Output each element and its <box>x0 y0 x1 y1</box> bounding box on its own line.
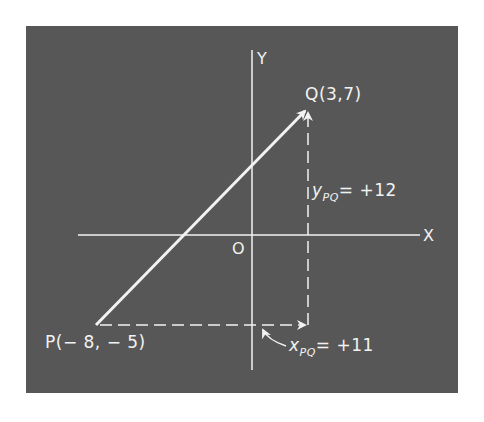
y-axis-label: Y <box>257 51 267 67</box>
y-component-label: yPQ= +12 <box>312 182 397 203</box>
vector-pq <box>96 111 305 325</box>
x-component-symbol: x <box>289 335 300 355</box>
y-component-symbol: y <box>312 180 323 200</box>
x-component-leader <box>263 330 286 346</box>
point-p-label: P(− 8, − 5) <box>45 334 146 351</box>
x-component-label: xPQ= +11 <box>289 337 374 358</box>
y-component-subscript: PQ <box>323 191 339 204</box>
y-component-value: = +12 <box>339 180 397 200</box>
x-component-value: = +11 <box>316 335 374 355</box>
x-axis-label: X <box>423 228 434 244</box>
point-q-label: Q(3,7) <box>305 86 362 103</box>
origin-label: O <box>232 241 245 257</box>
vector-diagram <box>0 0 484 422</box>
x-component-subscript: PQ <box>300 346 316 359</box>
